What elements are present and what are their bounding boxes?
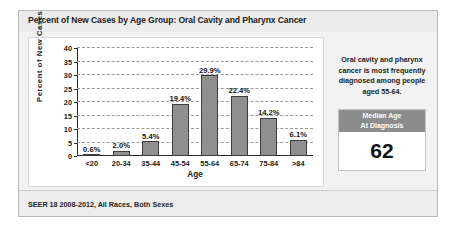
y-tick-label: 35 bbox=[64, 57, 72, 66]
bar-slot: 5.4%35-44 bbox=[136, 48, 166, 156]
y-tick-mark bbox=[74, 156, 77, 157]
y-tick-label: 5 bbox=[68, 138, 72, 147]
bar-value-label: 22.4% bbox=[228, 86, 250, 95]
bar-value-label: 0.6% bbox=[83, 145, 100, 154]
bar: 0.6% bbox=[83, 154, 100, 156]
page-title: Percent of New Cases by Age Group: Oral … bbox=[28, 15, 306, 25]
bar: 2.0% bbox=[113, 151, 130, 156]
y-tick-label: 15 bbox=[64, 111, 72, 120]
bar-value-label: 5.4% bbox=[142, 132, 159, 141]
chart-footer: SEER 18 2008-2012, All Races, Both Sexes bbox=[19, 190, 437, 216]
insight-note: Oral cavity and pharynx cancer is most f… bbox=[334, 55, 430, 97]
bar-slot: 0.6%<20 bbox=[77, 48, 107, 156]
chart-card: Percent of New Cases by Age Group: Oral … bbox=[18, 10, 438, 217]
bar-slot: 29.9%55-64 bbox=[195, 48, 225, 156]
x-tick-label: 55-64 bbox=[200, 159, 219, 168]
y-axis-title: Percent of New Cases bbox=[35, 11, 44, 102]
bar: 6.1% bbox=[290, 140, 307, 156]
bar-slot: 6.1%>84 bbox=[284, 48, 314, 156]
bar-slot: 19.4%45-54 bbox=[166, 48, 196, 156]
side-panel: Oral cavity and pharynx cancer is most f… bbox=[334, 37, 430, 187]
median-age-value: 62 bbox=[339, 132, 425, 170]
x-tick-label: 20-34 bbox=[112, 159, 131, 168]
bar: 22.4% bbox=[231, 96, 248, 156]
x-tick-label: 35-44 bbox=[141, 159, 160, 168]
bar-slot: 14.2%75-84 bbox=[254, 48, 284, 156]
bar-series: 0.6%<202.0%20-345.4%35-4419.4%45-5429.9%… bbox=[77, 48, 313, 156]
median-age-header: Median Age At Diagnosis bbox=[339, 110, 425, 132]
chart-title-bar: Percent of New Cases by Age Group: Oral … bbox=[19, 11, 437, 32]
y-tick-label: 30 bbox=[64, 71, 72, 80]
x-axis-title: Age bbox=[77, 170, 313, 179]
bar: 29.9% bbox=[201, 75, 218, 156]
bar-slot: 22.4%65-74 bbox=[225, 48, 255, 156]
y-tick-label: 40 bbox=[64, 44, 72, 53]
bar-value-label: 2.0% bbox=[113, 141, 130, 150]
median-age-box: Median Age At Diagnosis 62 bbox=[338, 109, 426, 171]
y-tick-label: 10 bbox=[64, 125, 72, 134]
bar: 14.2% bbox=[260, 118, 277, 156]
plot-area: 0510152025303540 0.6%<202.0%20-345.4%35-… bbox=[77, 48, 313, 156]
x-tick-label: 65-74 bbox=[230, 159, 249, 168]
median-age-label-line1: Median Age bbox=[362, 111, 401, 121]
card-body: Percent of New Cases 0510152025303540 0.… bbox=[19, 32, 437, 191]
y-tick-label: 25 bbox=[64, 84, 72, 93]
x-tick-label: >84 bbox=[292, 159, 305, 168]
x-tick-label: 45-54 bbox=[171, 159, 190, 168]
bar: 19.4% bbox=[172, 104, 189, 156]
bar-value-label: 29.9% bbox=[199, 66, 221, 75]
y-tick-label: 20 bbox=[64, 98, 72, 107]
bar-value-label: 14.2% bbox=[258, 108, 280, 117]
chart-panel: Percent of New Cases 0510152025303540 0.… bbox=[28, 37, 324, 187]
y-tick-label: 0 bbox=[68, 152, 72, 161]
bar-value-label: 6.1% bbox=[290, 130, 307, 139]
screenshot-root: Percent of New Cases by Age Group: Oral … bbox=[0, 0, 463, 236]
x-tick-label: 75-84 bbox=[259, 159, 278, 168]
median-age-label-line2: At Diagnosis bbox=[361, 121, 404, 131]
x-tick-label: <20 bbox=[85, 159, 98, 168]
bar-slot: 2.0%20-34 bbox=[107, 48, 137, 156]
bar: 5.4% bbox=[142, 141, 159, 156]
footer-source-text: SEER 18 2008-2012, All Races, Both Sexes bbox=[28, 200, 173, 209]
bar-value-label: 19.4% bbox=[169, 94, 191, 103]
